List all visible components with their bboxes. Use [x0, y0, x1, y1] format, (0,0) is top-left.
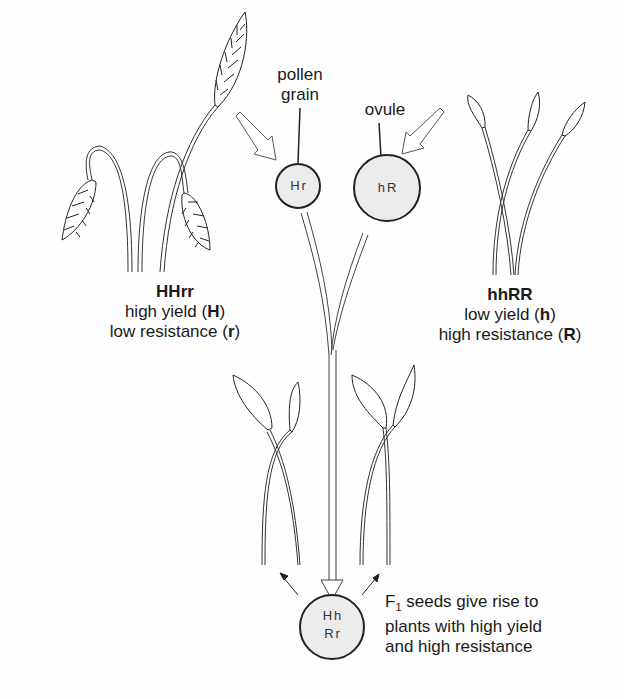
arrow-to-f1-left [280, 573, 298, 595]
parent-plant-right [482, 127, 565, 275]
parent-plant-left [86, 105, 218, 272]
parent-right-genotype: hhRR [487, 285, 532, 304]
arrow-to-pollen [236, 112, 276, 160]
parent-left-genotype: HHrr [156, 282, 194, 301]
pollen-alleles: Hr [278, 178, 320, 193]
parent-left-label: HHrr high yield (H) low resistance (r) [60, 282, 290, 342]
f1-plant-right-ears [352, 365, 415, 428]
f1-caption: F1 seeds give rise to plants with high y… [385, 592, 542, 657]
fertilization-tubes [301, 212, 368, 600]
parent-right-label: hhRR low yield (h) high resistance (R) [395, 285, 624, 345]
f1-plant-left-ears [233, 375, 300, 432]
arrow-to-f1-right [362, 574, 379, 595]
ear-left-drooping [62, 180, 96, 240]
ear-left-top [215, 12, 247, 107]
f1-alleles: Hh Rr [312, 607, 354, 643]
f1-plant-right [360, 425, 395, 565]
ovule-label: ovule [350, 100, 420, 120]
ear-right-drooping [182, 193, 210, 250]
genetic-cross-diagram: HHrr high yield (H) low resistance (r) h… [0, 0, 624, 699]
ovule-alleles: hR [362, 180, 414, 195]
f1-plant-left [262, 430, 300, 565]
pollen-grain-label: pollen grain [260, 65, 340, 105]
